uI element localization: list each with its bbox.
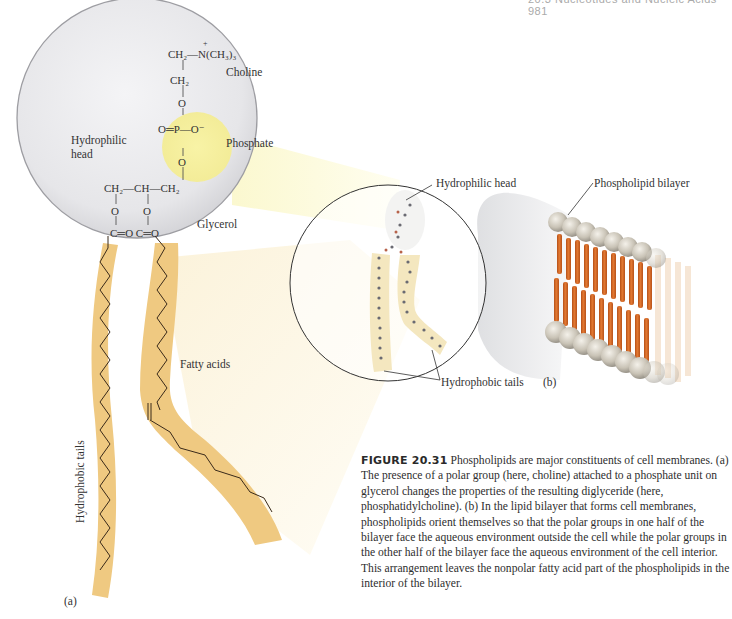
mini-head bbox=[385, 190, 425, 250]
panel-b-label: (b) bbox=[543, 376, 556, 389]
figure-caption: FIGURE 20.31 Phospholipids are major con… bbox=[361, 453, 731, 592]
ester-oxygen-2: O bbox=[143, 205, 151, 217]
label-choline: Choline bbox=[226, 66, 262, 79]
panel-a-label: (a) bbox=[64, 595, 77, 608]
head-circle bbox=[17, 0, 257, 238]
label-fatty-acids: Fatty acids bbox=[180, 358, 230, 371]
glycerol-backbone: CH₂—CH—CH₂ bbox=[104, 182, 180, 194]
label-hydrophilic-head-2: head bbox=[71, 148, 93, 161]
label-phospholipid-bilayer: Phospholipid bilayer bbox=[594, 177, 690, 190]
mini-tail-left bbox=[370, 253, 392, 372]
ester-oxygen-1: O bbox=[111, 205, 119, 217]
figure-number: FIGURE 20.31 bbox=[361, 454, 448, 467]
choline-ch2: CH₂ bbox=[170, 74, 189, 86]
label-hydrophobic-tails-vertical: Hydrophobic tails bbox=[74, 440, 87, 523]
label-glycerol: Glycerol bbox=[197, 218, 237, 231]
carbonyl-groups: C═O C═O bbox=[110, 227, 159, 239]
label-hydrophilic-head-1: Hydrophilic bbox=[71, 134, 127, 147]
phosphate-group: O═P—O⁻ bbox=[158, 123, 205, 135]
oxygen-top: O bbox=[178, 97, 186, 109]
label-hydrophilic-head: Hydrophilic head bbox=[436, 177, 516, 190]
caption-text: Phospholipids are major constituents of … bbox=[361, 454, 729, 590]
choline-charge: + bbox=[203, 38, 208, 50]
leader-bilayer bbox=[568, 183, 593, 215]
oxygen-bottom: O bbox=[178, 156, 186, 168]
label-hydrophobic-tails: Hydrophobic tails bbox=[441, 376, 524, 389]
label-phosphate: Phosphate bbox=[226, 137, 273, 150]
